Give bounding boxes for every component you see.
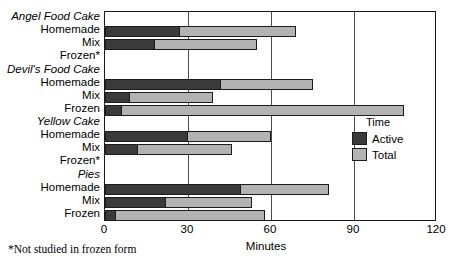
bar-active (105, 92, 130, 103)
x-tick-label: 30 (167, 223, 207, 236)
row-label: Mix (0, 89, 102, 102)
x-tick-label: 90 (333, 223, 373, 236)
x-tick-label: 120 (416, 223, 456, 236)
bar-total (105, 105, 404, 116)
legend-item: Total (352, 148, 432, 161)
bar-group (105, 78, 435, 91)
bar-active (105, 210, 116, 221)
row-label: Mix (0, 36, 102, 49)
legend: Time ActiveTotal (352, 116, 432, 164)
bar-group (105, 25, 435, 38)
group-label: Devil's Food Cake (0, 63, 102, 76)
group-label: Pies (0, 168, 102, 181)
row-label: Frozen* (0, 49, 102, 62)
bar-active (105, 144, 138, 155)
x-tick-label: 60 (250, 223, 290, 236)
legend-label: Total (372, 149, 396, 161)
bar-group (105, 91, 435, 104)
bar-group (105, 38, 435, 51)
row-label: Homemade (0, 128, 102, 141)
legend-label: Active (372, 133, 403, 145)
bar-active (105, 105, 122, 116)
legend-swatch-icon (352, 148, 367, 161)
x-axis-title-text: Minutes (246, 240, 286, 252)
bar-group (105, 209, 435, 222)
bar-active (105, 131, 188, 142)
bar-total (105, 210, 265, 221)
bar-active (105, 26, 180, 37)
bar-active (105, 184, 241, 195)
bar-active (105, 39, 155, 50)
legend-items: ActiveTotal (352, 132, 432, 161)
category-axis-labels: Angel Food CakeHomemadeMixFrozen*Devil's… (0, 11, 102, 221)
x-tick-label: 0 (84, 223, 124, 236)
row-label: Mix (0, 194, 102, 207)
row-label: Frozen (0, 207, 102, 220)
row-label: Homemade (0, 181, 102, 194)
bar-group (105, 183, 435, 196)
legend-item: Active (352, 132, 432, 145)
legend-title: Time (366, 116, 432, 128)
row-label: Mix (0, 141, 102, 154)
row-label: Frozen (0, 102, 102, 115)
row-label: Homemade (0, 76, 102, 89)
chart-footnote: *Not studied in frozen form (8, 243, 136, 255)
group-label: Yellow Cake (0, 115, 102, 128)
row-label: Frozen* (0, 154, 102, 167)
group-label: Angel Food Cake (0, 10, 102, 23)
legend-swatch-icon (352, 132, 367, 145)
bar-active (105, 79, 221, 90)
bar-active (105, 197, 166, 208)
row-label: Homemade (0, 23, 102, 36)
bar-chart: Angel Food CakeHomemadeMixFrozen*Devil's… (0, 0, 464, 268)
bar-group (105, 196, 435, 209)
